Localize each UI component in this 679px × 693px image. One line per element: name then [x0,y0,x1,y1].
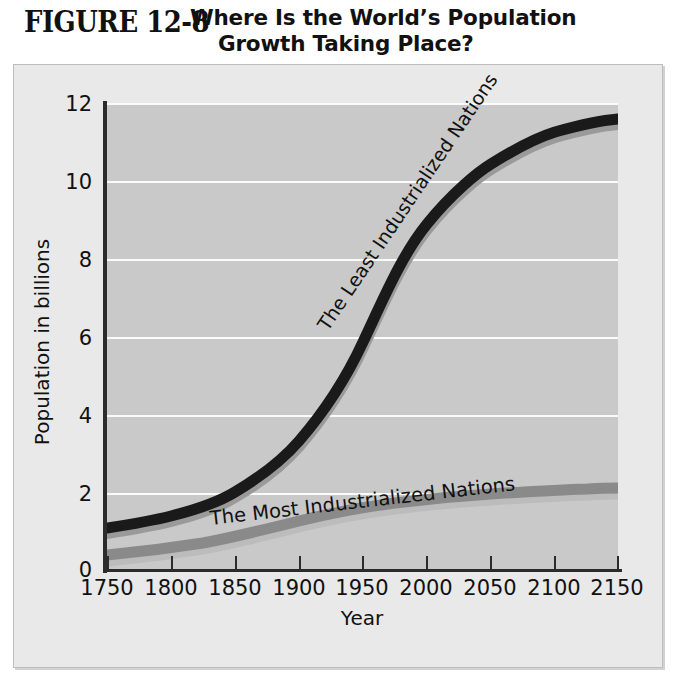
xtick-label-2000: 2000 [391,576,461,600]
xtick-label-2100: 2100 [519,576,589,600]
least-industrialized-curve [107,119,618,528]
xtick-2150 [617,556,619,570]
xtick-label-1900: 1900 [264,576,334,600]
xtick-label-1800: 1800 [136,576,206,600]
x-axis-title: Year [292,606,432,630]
xtick-label-1750: 1750 [72,576,142,600]
ytick-label-2: 2 [52,482,92,506]
ytick-label-4: 4 [52,404,92,428]
xtick-1950 [362,556,364,570]
y-axis-title: Population in billions [30,132,54,552]
xtick-label-2150: 2150 [582,576,652,600]
xtick-1900 [299,556,301,570]
least-industrialized-shadow [107,124,618,533]
xtick-label-2050: 2050 [455,576,525,600]
ytick-label-6: 6 [52,326,92,350]
ytick-label-8: 8 [52,248,92,272]
xtick-1750 [107,556,109,570]
xtick-1800 [171,556,173,570]
xtick-1850 [235,556,237,570]
xtick-label-1850: 1850 [200,576,270,600]
xtick-2050 [490,556,492,570]
y-axis-line [103,101,107,573]
population-growth-chart: 12 10 8 6 4 2 0 1750 1800 1850 1900 1950… [0,0,679,693]
xtick-label-1950: 1950 [327,576,397,600]
ytick-label-12: 12 [52,92,92,116]
xtick-2000 [426,556,428,570]
xtick-2100 [554,556,556,570]
ytick-label-10: 10 [52,170,92,194]
